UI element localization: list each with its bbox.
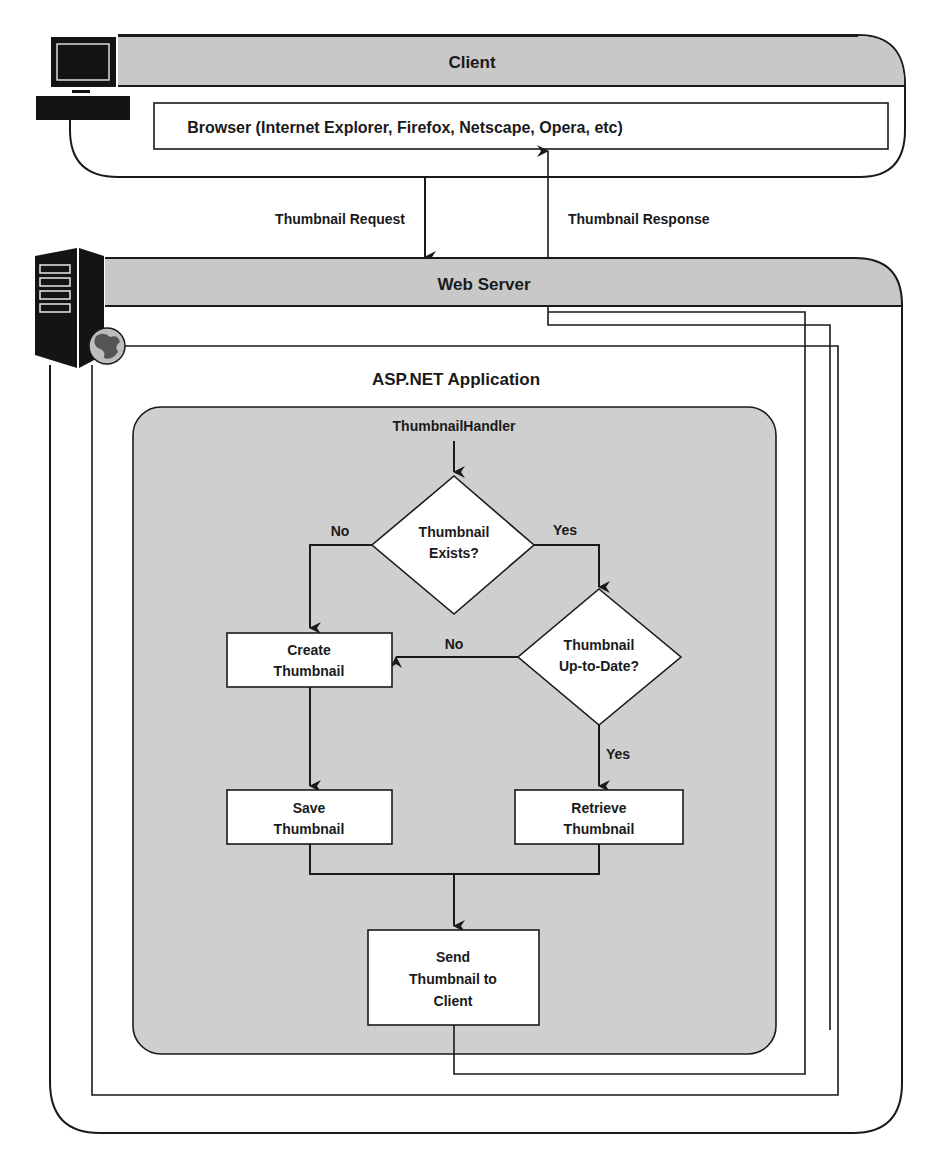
label-uptodate-yes: Yes: [606, 746, 630, 762]
client-title: Client: [448, 53, 496, 72]
architecture-diagram: Client Browser (Internet Explorer, Firef…: [0, 0, 937, 1158]
retrieve-text: Retrieve: [571, 800, 626, 816]
globe-icon: [89, 328, 125, 364]
decision-exists-text: Thumbnail: [419, 524, 490, 540]
application-title: ASP.NET Application: [372, 370, 540, 389]
web-server-title: Web Server: [437, 275, 531, 294]
create-text: Create: [287, 642, 331, 658]
send-text: Thumbnail to: [409, 971, 497, 987]
label-exists-yes: Yes: [553, 522, 577, 538]
client-section: Client Browser (Internet Explorer, Firef…: [36, 35, 905, 177]
computer-icon: [36, 37, 130, 120]
save-text: Save: [293, 800, 326, 816]
save-text: Thumbnail: [274, 821, 345, 837]
request-label: Thumbnail Request: [275, 211, 405, 227]
send-text: Client: [434, 993, 473, 1009]
client-header-band: [118, 36, 904, 86]
label-exists-no: No: [331, 523, 350, 539]
entry-label: ThumbnailHandler: [393, 418, 516, 434]
retrieve-text: Thumbnail: [564, 821, 635, 837]
response-label: Thumbnail Response: [568, 211, 710, 227]
send-text: Send: [436, 949, 470, 965]
decision-uptodate-text: Thumbnail: [564, 637, 635, 653]
create-text: Thumbnail: [274, 663, 345, 679]
browser-label: Browser (Internet Explorer, Firefox, Net…: [187, 119, 623, 136]
label-uptodate-no: No: [445, 636, 464, 652]
decision-uptodate-text: Up-to-Date?: [559, 658, 639, 674]
decision-exists-text: Exists?: [429, 545, 479, 561]
